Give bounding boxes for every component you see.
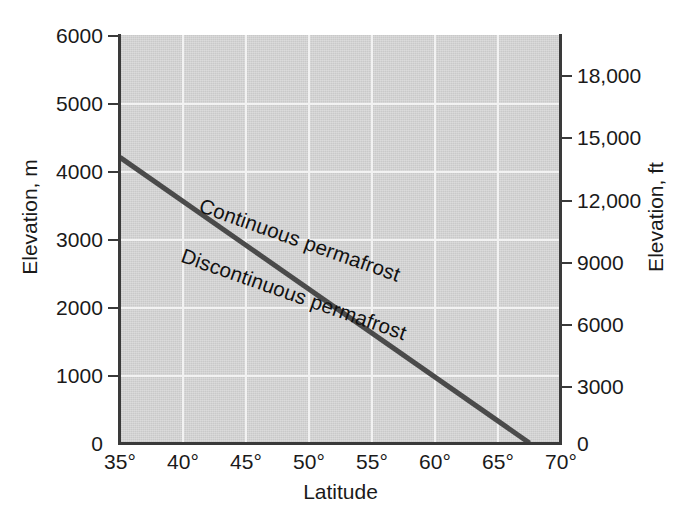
ytick-label-right-12000: 12,000: [577, 189, 641, 213]
y-axis-title-left: Elevation, m: [18, 127, 42, 307]
ytick-label-left-1000: 1000: [0, 364, 103, 388]
ytick-label-right-6000: 6000: [577, 313, 624, 337]
xtick-label-60: 60°: [400, 450, 470, 474]
xtick-label-40: 40°: [148, 450, 218, 474]
axis-spine-bottom: [118, 442, 562, 445]
ytick-label-left-3000: 3000: [0, 228, 103, 252]
ytick-label-left-6000: 6000: [0, 24, 103, 48]
tick-left-6000: [108, 35, 119, 37]
ytick-label-left-4000: 4000: [0, 160, 103, 184]
xtick-label-50: 50°: [274, 450, 344, 474]
tick-left-1000: [108, 375, 119, 377]
ytick-label-right-3000: 3000: [577, 375, 624, 399]
permafrost-limit-line: [120, 35, 561, 443]
tick-left-3000: [108, 239, 119, 241]
tick-right-18000: [561, 75, 572, 77]
ytick-label-right-18000: 18,000: [577, 64, 641, 88]
ytick-label-left-5000: 5000: [0, 92, 103, 116]
xtick-label-35: 35°: [85, 450, 155, 474]
tick-right-9000: [561, 262, 572, 264]
ytick-label-right-9000: 9000: [577, 251, 624, 275]
x-axis-title: Latitude: [120, 480, 561, 504]
xtick-label-70: 70°: [526, 450, 596, 474]
xtick-label-45: 45°: [211, 450, 281, 474]
plot-area: Continuous permafrost Discontinuous perm…: [120, 35, 561, 443]
tick-left-5000: [108, 103, 119, 105]
tick-left-4000: [108, 171, 119, 173]
ytick-label-right-15000: 15,000: [577, 126, 641, 150]
tick-right-3000: [561, 386, 572, 388]
ytick-label-left-2000: 2000: [0, 296, 103, 320]
tick-right-6000: [561, 324, 572, 326]
axis-spine-right: [559, 34, 562, 445]
xtick-label-55: 55°: [337, 450, 407, 474]
tick-left-2000: [108, 307, 119, 309]
permafrost-elevation-latitude-chart: Continuous permafrost Discontinuous perm…: [0, 0, 697, 514]
tick-right-12000: [561, 200, 572, 202]
tick-right-15000: [561, 137, 572, 139]
y-axis-title-right: Elevation, ft: [644, 127, 668, 307]
xtick-label-65: 65°: [463, 450, 533, 474]
